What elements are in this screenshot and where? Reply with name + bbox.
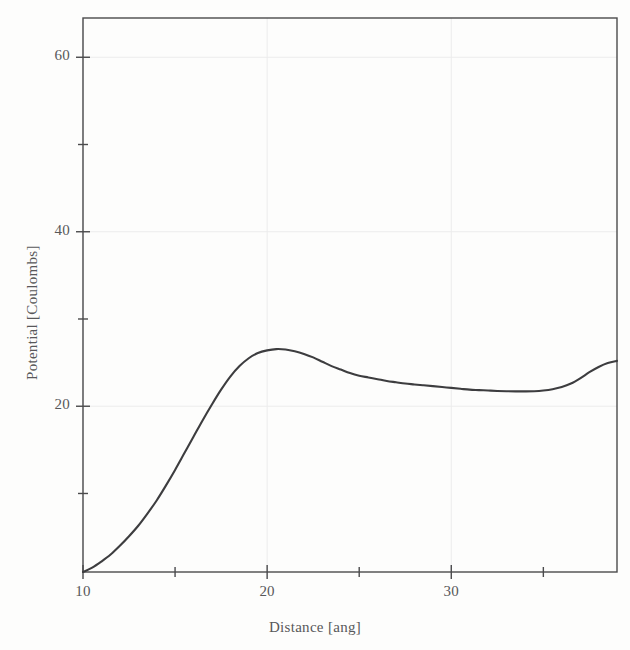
y-tick-label: 60	[28, 47, 70, 64]
plot-canvas	[0, 0, 630, 650]
x-tick-label: 20	[242, 583, 292, 600]
y-tick-label: 20	[28, 396, 70, 413]
y-axis-title: Potential [Coulombs]	[24, 245, 41, 380]
data-series-line	[83, 349, 617, 572]
axis-ticks	[76, 57, 543, 579]
x-tick-label: 30	[426, 583, 476, 600]
x-axis-title: Distance [ang]	[0, 619, 630, 636]
chart-figure: 204060 102030 Potential [Coulombs] Dista…	[0, 0, 630, 650]
y-tick-label: 40	[28, 222, 70, 239]
x-tick-label: 10	[58, 583, 108, 600]
